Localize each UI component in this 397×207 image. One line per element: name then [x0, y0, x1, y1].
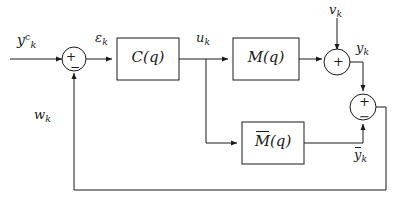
model-label-overbar	[256, 131, 269, 132]
residual-junction-plus-sign: +	[359, 95, 370, 108]
model-output-base: y	[354, 147, 361, 162]
model-label-symbol-group: M	[255, 132, 270, 150]
plant-block-label: M(q)	[233, 48, 299, 66]
reference-base: y	[17, 32, 25, 48]
disturbance-subscript: k	[337, 9, 343, 19]
block-diagram-canvas: C(q) M(q) M(q) yck εk uk vk yk yk wk + −…	[0, 0, 397, 207]
controller-block-label: C(q)	[117, 48, 179, 66]
plant-label-symbol: M	[248, 48, 263, 66]
model-block-label: M(q)	[242, 132, 304, 150]
controller-label-symbol: C	[132, 48, 143, 66]
error-subscript: k	[102, 37, 108, 47]
output-base: y	[356, 40, 363, 55]
model-output-signal-label: yk	[354, 148, 367, 164]
controller-label-arg: (q)	[143, 48, 164, 66]
plant-label-arg: (q)	[263, 48, 284, 66]
error-signal-label: εk	[95, 31, 108, 47]
error-junction-minus-sign: −	[70, 61, 80, 73]
model-label-arg: (q)	[270, 132, 291, 150]
residual-junction-minus-sign: −	[359, 110, 370, 123]
feedback-base: w	[34, 107, 45, 122]
output-junction-plus-sign: +	[333, 55, 344, 68]
model-output-base-group: y	[354, 148, 361, 161]
error-base: ε	[95, 30, 102, 45]
model-output-overbar	[355, 147, 361, 148]
control-subscript: k	[205, 37, 211, 47]
model-label-symbol: M	[255, 132, 270, 150]
disturbance-signal-label: vk	[329, 3, 342, 19]
output-subscript: k	[364, 47, 370, 57]
reference-subscript: k	[30, 39, 36, 50]
control-base: u	[196, 30, 204, 45]
output-signal-label: yk	[356, 41, 369, 57]
feedback-subscript: k	[45, 114, 51, 124]
feedback-signal-label: wk	[34, 108, 51, 124]
disturbance-base: v	[329, 2, 336, 17]
control-signal-label: uk	[196, 31, 210, 47]
model-output-subscript: k	[362, 154, 368, 164]
reference-signal-label: yck	[17, 32, 36, 49]
